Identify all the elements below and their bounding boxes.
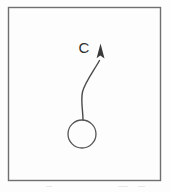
rectangular-border [9, 8, 161, 181]
vector-label-c: C [79, 39, 90, 56]
line-drawing-canvas: C [0, 0, 171, 192]
figure-container: C [0, 0, 171, 192]
